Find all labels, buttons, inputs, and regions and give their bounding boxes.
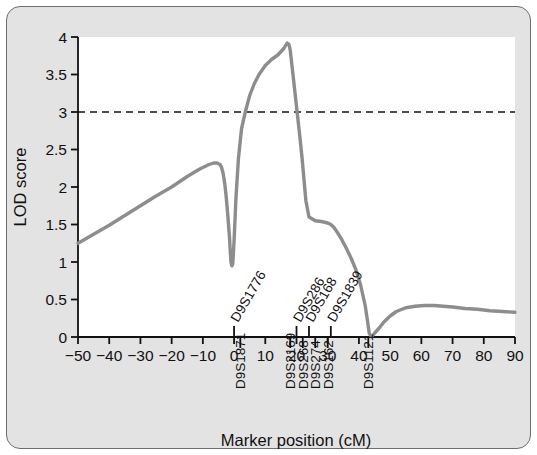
- x-tick-label: 70: [444, 347, 462, 364]
- y-tick-label: 2.5: [45, 141, 67, 158]
- x-axis-title: Marker position (cM): [221, 431, 371, 449]
- y-axis-tick-labels: 00.511.522.533.54: [45, 29, 67, 346]
- y-tick-label: 1: [58, 254, 67, 271]
- lod-score-chart: 00.511.522.533.54 −50−40−30−20−100102030…: [0, 0, 537, 455]
- marker-label: D9S1121: [361, 334, 376, 389]
- x-tick-label: −20: [158, 347, 185, 364]
- plot-area: [78, 37, 515, 337]
- x-tick-label: 60: [413, 347, 431, 364]
- x-tick-label: 10: [257, 347, 275, 364]
- y-tick-label: 0: [58, 329, 67, 346]
- y-axis-title: LOD score: [11, 148, 29, 227]
- y-tick-label: 1.5: [45, 216, 67, 233]
- x-tick-label: −10: [190, 347, 217, 364]
- x-tick-label: 80: [475, 347, 493, 364]
- x-tick-label: −30: [127, 347, 154, 364]
- x-tick-label: −40: [96, 347, 123, 364]
- marker-label: D9S162: [321, 340, 336, 389]
- y-tick-label: 0.5: [45, 291, 67, 308]
- y-tick-label: 3.5: [45, 66, 67, 83]
- y-tick-label: 2: [58, 179, 67, 196]
- y-axis-ticks: [71, 37, 78, 337]
- x-tick-label: 50: [382, 347, 400, 364]
- marker-label: D9S1871: [233, 333, 248, 389]
- chart-canvas: 00.511.522.533.54 −50−40−30−20−100102030…: [0, 0, 537, 455]
- x-tick-label: −50: [65, 347, 92, 364]
- y-tick-label: 3: [58, 104, 67, 121]
- x-tick-label: 90: [506, 347, 524, 364]
- y-tick-label: 4: [58, 29, 67, 46]
